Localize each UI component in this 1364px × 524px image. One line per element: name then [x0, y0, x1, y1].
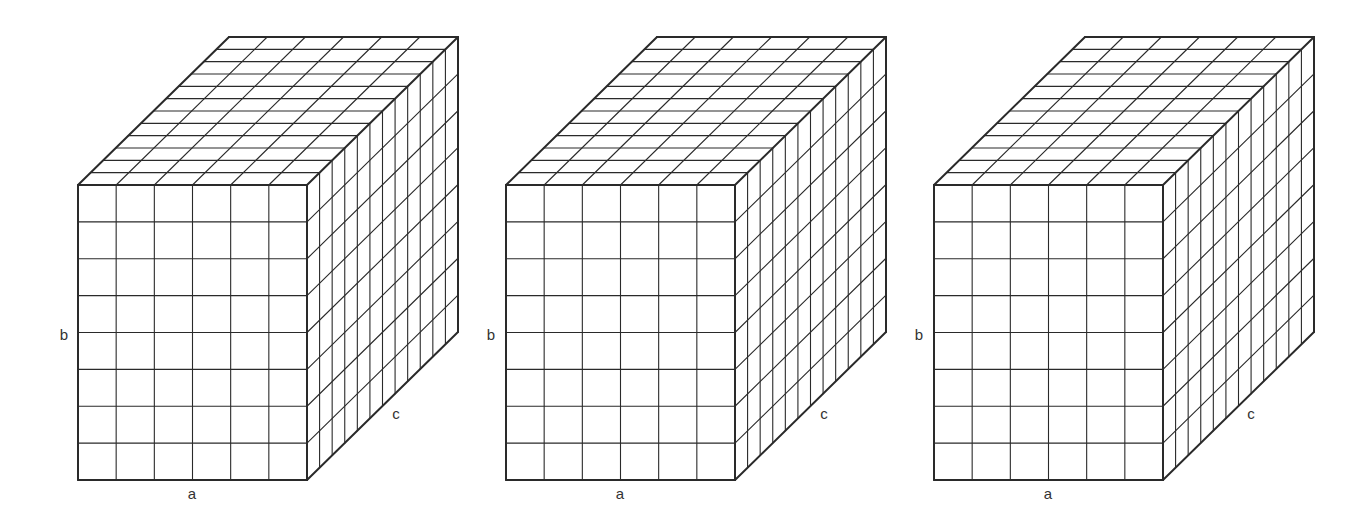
box-1	[78, 37, 458, 480]
box-3-label-c: c	[1247, 406, 1255, 421]
box-1-label-c: c	[392, 406, 400, 421]
box-3-label-b: b	[915, 327, 923, 342]
box-2-label-b: b	[487, 327, 495, 342]
diagram-stage: a b c a b c a b c	[0, 0, 1364, 524]
box-3-label-a: a	[1044, 486, 1052, 501]
box-1-label-b: b	[60, 327, 68, 342]
cube-grid-drawing	[0, 0, 1364, 524]
box-2-label-a: a	[616, 486, 624, 501]
box-1-label-a: a	[188, 486, 196, 501]
box-2-label-c: c	[820, 406, 828, 421]
box-3	[934, 37, 1314, 480]
box-2	[506, 37, 886, 480]
